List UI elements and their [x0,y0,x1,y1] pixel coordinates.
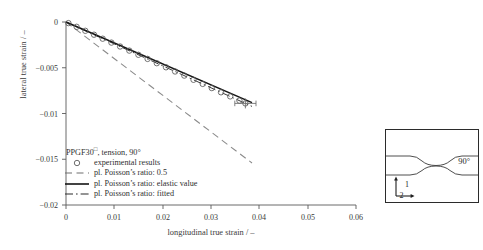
y-tick-labels: 0 −0.005 −0.01 −0.015 −0.02 [35,18,58,210]
specimen-inset: 90° 2 1 [385,129,479,203]
data-point [228,94,233,99]
legend-title: PPGF30□, tension, 90° [64,144,197,158]
strain-chart: 0 0.01 0.02 0.03 0.04 0.05 0.06 0 −0.005… [0,0,370,250]
data-point [218,90,223,95]
x-tick-0: 0 [64,213,68,222]
x-tick-6: 0.06 [349,213,363,222]
x-axis-label: longitudinal true strain / – [66,228,356,237]
x-tick-2: 0.02 [156,213,170,222]
figure-root: 0 0.01 0.02 0.03 0.04 0.05 0.06 0 −0.005… [0,0,483,250]
legend-item-poisson-fitted: pl. Poisson’s ratio: fitted [64,189,197,199]
x-tick-1: 0.01 [107,213,121,222]
axis-label-1: 1 [405,180,409,189]
x-tick-labels: 0 0.01 0.02 0.03 0.04 0.05 0.06 [64,213,363,222]
legend-title-material: PPGF30 [66,148,94,157]
y-tick-4: −0.02 [39,201,58,210]
legend-label-poisson-elastic: pl. Poisson’s ratio: elastic value [94,179,197,189]
open-circle-marker-icon [64,158,90,168]
x-tick-3: 0.03 [204,213,218,222]
y-tick-1: −0.005 [35,64,58,73]
legend-item-poisson-0p5: pl. Poisson’s ratio: 0.5 [64,168,197,178]
legend-label-poisson-fitted: pl. Poisson’s ratio: fitted [94,189,174,199]
legend-label-experimental: experimental results [94,158,160,168]
coordinate-indicator-icon: 2 1 [391,175,417,199]
legend-item-experimental: experimental results [64,158,197,168]
legend-title-conditions: , tension, 90° [97,148,140,157]
axis-label-2: 2 [400,191,404,200]
y-tick-0: 0 [54,18,58,27]
dashed-line-icon [64,168,90,178]
legend-label-poisson-0p5: pl. Poisson’s ratio: 0.5 [94,168,167,178]
y-tick-3: −0.015 [35,155,58,164]
dashdot-line-icon [64,189,90,199]
y-tick-2: −0.01 [39,110,58,119]
solid-line-icon [64,179,90,189]
specimen-angle-label: 90° [458,157,470,166]
specimen-lower-contour [386,166,478,175]
y-axis-label: lateral true strain / – [19,0,28,140]
plot-canvas: 0 0.01 0.02 0.03 0.04 0.05 0.06 0 −0.005… [0,0,370,250]
x-tick-4: 0.04 [252,213,266,222]
chart-legend: PPGF30□, tension, 90° experimental resul… [64,144,197,199]
x-ticks [66,205,356,209]
legend-item-poisson-elastic: pl. Poisson’s ratio: elastic value [64,179,197,189]
x-tick-5: 0.05 [301,213,315,222]
